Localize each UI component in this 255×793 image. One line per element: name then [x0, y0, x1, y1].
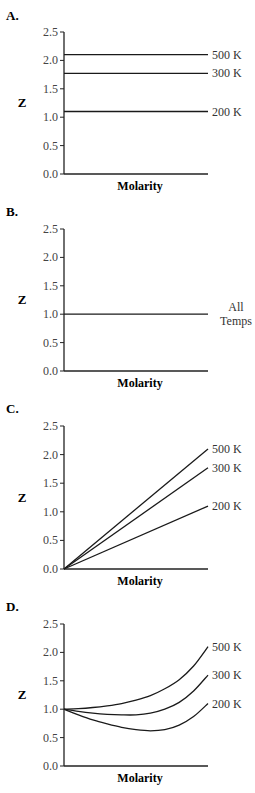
series-line-500-k	[64, 449, 208, 569]
series-label-300-k: 300 K	[212, 668, 242, 682]
series-label-300-k: 300 K	[212, 66, 242, 80]
y-tick-label: 2.5	[43, 617, 58, 631]
y-tick-label: 1.5	[43, 476, 58, 490]
y-tick-label: 1.5	[43, 82, 58, 96]
series-label-200-k: 200 K	[212, 697, 242, 711]
y-tick-label: 1.0	[43, 307, 58, 321]
y-tick-label: 2.5	[43, 25, 58, 39]
y-axis-label: Z	[18, 95, 27, 110]
series-label-500-k: 500 K	[212, 48, 242, 62]
y-tick-label: 0.0	[43, 167, 58, 181]
y-tick-label: 1.0	[43, 110, 58, 124]
y-tick-label: 2.5	[43, 222, 58, 236]
series-label-500-k: 500 K	[212, 442, 242, 456]
series-label-200-k: 200 K	[212, 105, 242, 119]
y-tick-label: 0.5	[43, 731, 58, 745]
y-tick-label: 0.5	[43, 336, 58, 350]
panel-label-d: D.	[6, 599, 19, 614]
series-label-200-k: 200 K	[212, 499, 242, 513]
series-label-300-k: 300 K	[212, 461, 242, 475]
y-axis-label: Z	[18, 292, 27, 307]
y-tick-label: 1.0	[43, 505, 58, 519]
series-label-all-temps-2: Temps	[220, 314, 252, 328]
z-vs-molarity-figure: A.0.00.51.01.52.02.5ZMolarity500 K300 K2…	[0, 0, 255, 793]
y-tick-label: 1.5	[43, 279, 58, 293]
y-tick-label: 2.0	[43, 645, 58, 659]
series-label-500-k: 500 K	[212, 640, 242, 654]
series-line-200-k	[64, 506, 208, 569]
y-tick-label: 0.5	[43, 139, 58, 153]
x-axis-label: Molarity	[117, 179, 162, 193]
x-axis-label: Molarity	[117, 771, 162, 785]
y-tick-label: 0.0	[43, 759, 58, 773]
series-line-300-k	[64, 675, 208, 715]
y-tick-label: 0.0	[43, 364, 58, 378]
x-axis-label: Molarity	[117, 574, 162, 588]
series-label-all-temps: All	[228, 300, 244, 314]
x-axis-label: Molarity	[117, 376, 162, 390]
y-tick-label: 2.0	[43, 53, 58, 67]
y-tick-label: 2.0	[43, 250, 58, 264]
y-axis-label: Z	[18, 490, 27, 505]
y-tick-label: 2.0	[43, 448, 58, 462]
panel-label-c: C.	[6, 401, 19, 416]
y-tick-label: 1.0	[43, 702, 58, 716]
series-line-500-k	[64, 647, 208, 709]
y-tick-label: 2.5	[43, 419, 58, 433]
series-line-300-k	[64, 468, 208, 569]
y-axis-label: Z	[18, 687, 27, 702]
panel-label-b: B.	[6, 204, 18, 219]
y-tick-label: 1.5	[43, 674, 58, 688]
y-tick-label: 0.0	[43, 562, 58, 576]
y-tick-label: 0.5	[43, 533, 58, 547]
panel-label-a: A.	[6, 8, 19, 23]
